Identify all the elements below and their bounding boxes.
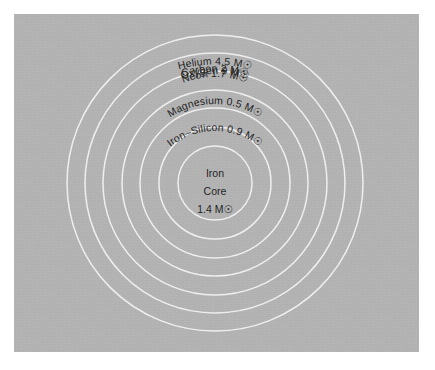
- ring-carbon: [85, 53, 345, 313]
- core-label-line-3: 1.4 M☉: [197, 203, 233, 215]
- iron-core-label-group: Iron Core 1.4 M☉: [197, 167, 233, 215]
- core-label-line-1: Iron: [206, 167, 224, 179]
- shell-diagram-svg: Helium 4.5 M☉ Carbon 2 M☉ Oxygen 9 M☉ Ne…: [14, 14, 419, 352]
- figure-root: Helium 4.5 M☉ Carbon 2 M☉ Oxygen 9 M☉ Ne…: [0, 0, 435, 370]
- shell-label-magnesium-text: Magnesium 0.5 M☉: [165, 94, 265, 119]
- ring-helium: [67, 35, 363, 331]
- shell-label-magnesium: Magnesium 0.5 M☉: [165, 94, 265, 119]
- diagram-panel: Helium 4.5 M☉ Carbon 2 M☉ Oxygen 9 M☉ Ne…: [14, 14, 419, 352]
- core-label-line-2: Core: [204, 185, 227, 197]
- shell-labels-group: Helium 4.5 M☉ Carbon 2 M☉ Oxygen 9 M☉ Ne…: [164, 55, 265, 149]
- shell-rings-group: [67, 35, 363, 331]
- ring-neon: [122, 90, 308, 276]
- shell-label-iron-silicon: Iron–Silicon 0.9 M☉: [164, 121, 265, 149]
- shell-label-iron-silicon-text: Iron–Silicon 0.9 M☉: [164, 121, 265, 149]
